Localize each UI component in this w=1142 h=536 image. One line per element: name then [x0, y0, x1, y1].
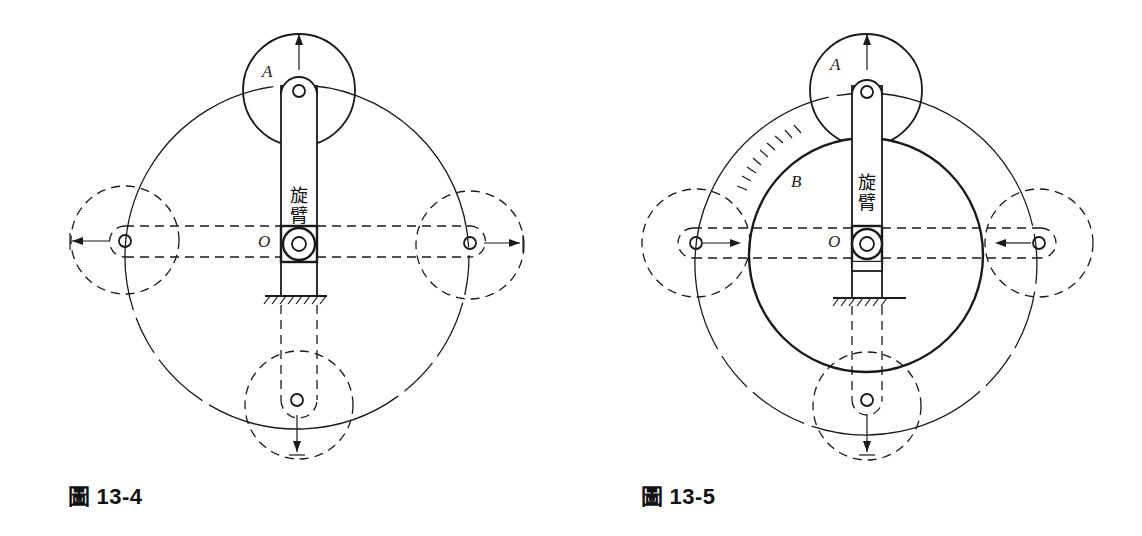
label-center-o: O — [828, 232, 840, 252]
pivot-o — [852, 229, 882, 259]
figure-caption: 圖13-5 — [641, 478, 716, 510]
arrow-left-icon — [72, 237, 83, 245]
arrow-down-icon — [863, 441, 871, 452]
label-sun-b: B — [791, 172, 801, 192]
arrow-down-icon — [293, 441, 301, 452]
arrow-left-icon — [995, 239, 1006, 247]
arm-label: 旋 臂 — [288, 186, 310, 226]
arrow-up-icon — [295, 34, 303, 45]
planetary-sun-gear-diagram — [571, 0, 1142, 536]
arrow-right-icon — [730, 239, 741, 247]
arrow-right-icon — [509, 239, 520, 247]
arm-label: 旋 臂 — [856, 173, 878, 213]
figure-caption: 圖13-4 — [68, 478, 143, 510]
planetary-arm-diagram — [0, 0, 571, 536]
arrow-up-icon — [863, 34, 871, 45]
figure-13-4: A O 旋 臂 圖13-4 — [0, 0, 571, 536]
pivot-o — [283, 228, 315, 260]
figure-13-5: A B O 旋 臂 圖13-5 — [571, 0, 1142, 536]
label-center-o: O — [258, 232, 270, 252]
label-gear-a: A — [830, 55, 840, 75]
label-gear-a: A — [262, 62, 272, 82]
